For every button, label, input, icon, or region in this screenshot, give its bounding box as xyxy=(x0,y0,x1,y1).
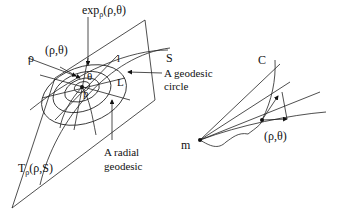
theta-label: θ xyxy=(87,70,92,82)
diagram: expρ(ρ,θ) (ρ,θ) ρ S l θ L p A geodesic c… xyxy=(0,0,339,219)
m-label: m xyxy=(181,138,191,152)
exp-label: expρ(ρ,θ) xyxy=(82,3,126,19)
c-label: C xyxy=(258,53,266,67)
s-label: S xyxy=(166,51,173,65)
tangent-plane xyxy=(12,20,155,208)
radial-geodesic-label-2: geodesic xyxy=(104,160,143,172)
rho-theta-right-label: (ρ,θ) xyxy=(264,129,287,143)
p-label: p xyxy=(83,87,89,99)
tangent-plane-label: Tρ(ρ,S) xyxy=(18,161,53,177)
l-label: l xyxy=(117,52,120,64)
geodesic-diagram: expρ(ρ,θ) (ρ,θ) ρ S l θ L p A geodesic c… xyxy=(0,0,339,219)
geodesic-circle-label-1: A geodesic xyxy=(164,67,213,79)
radial-geodesic-label-1: A radial xyxy=(104,146,139,158)
L-label: L xyxy=(117,76,124,88)
geodesic-circle-label-2: circle xyxy=(164,80,189,92)
rho-theta-left-label: (ρ,θ) xyxy=(45,43,68,57)
rho-label: ρ xyxy=(28,51,34,65)
